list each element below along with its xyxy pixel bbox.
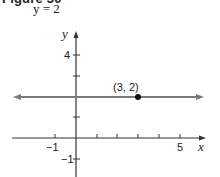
y-tick-label-4: 4 (64, 49, 70, 61)
y-axis-arrow-icon (74, 31, 79, 38)
line-y-equals-2 (13, 94, 204, 100)
x-tick-label-neg1: −1 (46, 141, 59, 153)
y-axis-label: y (60, 26, 68, 41)
y-tick-label-neg1: −1 (61, 153, 74, 165)
line-right-arrow-icon (196, 94, 204, 100)
point-label: (3, 2) (113, 81, 139, 93)
x-tick-label-5: 5 (177, 141, 183, 153)
x-axis (12, 134, 206, 141)
graph: y 4 −1 −1 5 x (3, 2) (0, 0, 220, 177)
line-left-arrow-icon (13, 94, 21, 100)
x-axis-label: x (197, 139, 204, 154)
y-axis (73, 31, 80, 177)
point-3-2 (135, 94, 141, 100)
